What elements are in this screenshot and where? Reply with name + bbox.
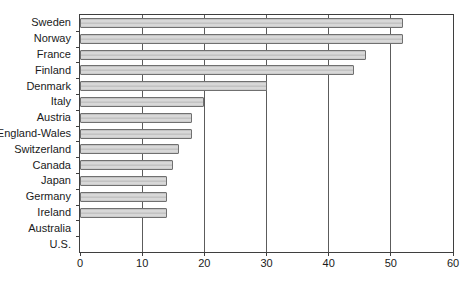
bar-japan [80, 176, 167, 186]
bar-austria [80, 113, 192, 123]
x-tick-40 [328, 252, 329, 256]
x-tick-60 [453, 252, 454, 256]
bar-sweden [80, 18, 403, 28]
category-label: Italy [0, 94, 75, 110]
category-label: England-Wales [0, 126, 75, 142]
category-label: Norway [0, 31, 75, 47]
category-label: Germany [0, 189, 75, 205]
bar-denmark [80, 81, 267, 91]
x-tick-20 [204, 252, 205, 256]
x-tick-0 [80, 252, 81, 256]
category-tick [76, 189, 79, 190]
x-tick-label-50: 50 [376, 257, 406, 269]
category-label: Sweden [0, 15, 75, 31]
category-tick [76, 110, 79, 111]
x-tick-label-60: 60 [438, 257, 468, 269]
category-label: Austria [0, 110, 75, 126]
category-tick [76, 173, 79, 174]
x-tick-50 [390, 252, 391, 256]
x-tick-label-30: 30 [252, 257, 282, 269]
bar-italy [80, 97, 204, 107]
category-tick [76, 94, 79, 95]
bar-germany [80, 192, 167, 202]
gridline-x50 [390, 15, 391, 252]
bar-france [80, 50, 366, 60]
x-tick-label-20: 20 [189, 257, 219, 269]
category-label: Ireland [0, 205, 75, 221]
bar-ireland [80, 208, 167, 218]
category-tick [76, 220, 79, 221]
plot-area [79, 14, 454, 253]
category-tick [76, 126, 79, 127]
category-label: France [0, 47, 75, 63]
bar-finland [80, 65, 354, 75]
x-tick-10 [142, 252, 143, 256]
category-tick [76, 205, 79, 206]
bar-norway [80, 34, 403, 44]
category-label: Canada [0, 157, 75, 173]
x-tick-30 [266, 252, 267, 256]
category-tick [76, 141, 79, 142]
category-tick [76, 62, 79, 63]
category-tick [76, 78, 79, 79]
category-axis-labels: SwedenNorwayFranceFinlandDenmarkItalyAus… [0, 15, 75, 252]
bar-england-wales [80, 129, 192, 139]
category-label: U.S. [0, 236, 75, 252]
category-label: Japan [0, 173, 75, 189]
category-tick [76, 236, 79, 237]
bar-switzerland [80, 144, 179, 154]
bar-canada [80, 160, 173, 170]
x-tick-label-10: 10 [127, 257, 157, 269]
x-tick-label-40: 40 [314, 257, 344, 269]
category-tick [76, 31, 79, 32]
category-label: Switzerland [0, 141, 75, 157]
x-tick-label-0: 0 [65, 257, 95, 269]
category-label: Denmark [0, 78, 75, 94]
category-tick [76, 157, 79, 158]
category-label: Finland [0, 62, 75, 78]
category-label: Australia [0, 220, 75, 236]
category-tick [76, 47, 79, 48]
bar-chart-figure: SwedenNorwayFranceFinlandDenmarkItalyAus… [0, 0, 469, 284]
